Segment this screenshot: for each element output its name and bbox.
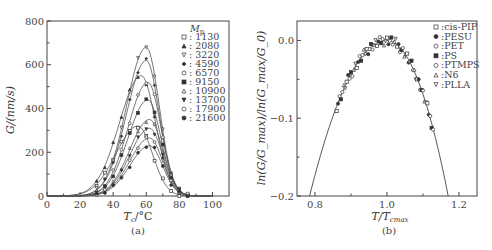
point-mp-9150 xyxy=(104,185,107,188)
point-mp-2080 xyxy=(104,166,107,169)
point-mp-1130 xyxy=(153,159,156,162)
point-mp-9150 xyxy=(120,154,123,157)
legend-marker-21600 xyxy=(182,116,186,120)
point-PTMPS xyxy=(371,48,374,51)
legend-marker-PET xyxy=(434,44,438,48)
point-mp-21600 xyxy=(104,192,107,195)
point-mp-6570 xyxy=(153,93,156,96)
point-mp-9150 xyxy=(145,98,148,101)
chart-b-ylabel: ln(G/G_max)/ln(G_max/G_0) xyxy=(255,31,268,186)
point-PESU xyxy=(417,78,420,81)
point-mp-21600 xyxy=(95,192,98,195)
point-mp-1130 xyxy=(137,126,140,129)
legend-marker-2080 xyxy=(182,44,186,48)
legend-marker-17900 xyxy=(182,107,186,111)
point-PS xyxy=(359,59,362,62)
point-PLLA xyxy=(344,87,347,90)
x-tick-label: 40 xyxy=(107,199,120,210)
fit-curve-path xyxy=(310,40,449,196)
legend-marker-3220 xyxy=(182,53,186,57)
y-tick-label: 200 xyxy=(25,147,44,158)
point-mp-9150 xyxy=(161,143,164,146)
point-cis-PIP xyxy=(385,36,388,39)
point-PS xyxy=(410,59,413,62)
point-mp-13700 xyxy=(161,153,164,156)
point-mp-3220 xyxy=(153,75,156,78)
legend-label-PLLA: :PLLA xyxy=(441,79,470,90)
point-PET xyxy=(348,77,351,80)
legend-marker-cis-PIP xyxy=(434,25,438,29)
legend-marker-1130 xyxy=(182,35,186,39)
chart-b-ticks: 0.81.01.20.0−0.1−0.2 xyxy=(270,35,467,210)
legend-marker-PLLA xyxy=(434,83,438,87)
chart-a-caption: (a) xyxy=(131,225,145,236)
y-tick-label: 600 xyxy=(25,59,44,70)
point-cis-PIP xyxy=(375,44,378,47)
legend-label-21600: : 21600 xyxy=(189,112,225,123)
point-mp-21600 xyxy=(145,146,148,149)
x-tick-label: 1.0 xyxy=(379,199,395,210)
point-mp-21600 xyxy=(137,151,140,154)
point-mp-21600 xyxy=(120,176,123,179)
point-mp-6570 xyxy=(145,82,148,85)
point-mp-4590 xyxy=(153,84,156,87)
chart-b-fit-curve xyxy=(310,40,449,196)
point-mp-17900 xyxy=(145,136,148,139)
point-PS xyxy=(390,36,393,39)
chart-b-legend: :cis-PIP:PESU:PET:PS:PTMPS:N6:PLLA xyxy=(434,21,480,90)
legend-marker-4590 xyxy=(182,62,186,66)
point-PTMPS xyxy=(341,91,344,94)
point-mp-17900 xyxy=(128,159,131,162)
point-mp-1130 xyxy=(104,171,107,174)
legend-marker-6570 xyxy=(182,71,186,75)
point-mp-1130 xyxy=(178,195,181,198)
y-tick-label: −0.1 xyxy=(270,113,294,124)
point-PLLA xyxy=(384,40,387,43)
point-mp-1130 xyxy=(161,177,164,180)
point-mp-9150 xyxy=(137,112,140,115)
point-mp-6570 xyxy=(112,169,115,172)
chart-b-xlabel: T/Tcmax xyxy=(371,210,408,224)
point-cis-PIP xyxy=(406,52,409,55)
point-PTMPS xyxy=(351,75,354,78)
point-mp-3220 xyxy=(137,57,140,60)
point-N6 xyxy=(342,84,345,87)
point-PS xyxy=(339,98,342,101)
point-PTMPS xyxy=(401,46,404,49)
x-tick-label: 20 xyxy=(74,199,87,210)
x-tick-label: 1.2 xyxy=(451,199,467,210)
point-mp-4590 xyxy=(128,98,131,101)
point-mp-13700 xyxy=(137,136,140,139)
x-tick-label: 80 xyxy=(173,199,186,210)
point-mp-3220 xyxy=(120,126,123,129)
point-mp-9150 xyxy=(153,111,156,114)
curve-mp-4590 xyxy=(47,60,213,196)
point-mp-9150 xyxy=(128,132,131,135)
point-mp-21600 xyxy=(153,146,156,149)
point-mp-21600 xyxy=(186,195,189,198)
point-PS xyxy=(370,43,373,46)
point-mp-1130 xyxy=(120,140,123,143)
point-mp-1130 xyxy=(170,190,173,193)
point-PESU xyxy=(367,53,370,56)
y-tick-label: 0.0 xyxy=(278,35,294,46)
point-mp-4590 xyxy=(145,57,148,60)
point-PTMPS xyxy=(361,53,364,56)
y-tick-label: 0 xyxy=(38,191,44,202)
legend-marker-PTMPS xyxy=(434,63,438,67)
point-PET xyxy=(429,114,432,117)
x-tick-label: 60 xyxy=(140,199,153,210)
point-mp-21600 xyxy=(128,166,131,169)
point-mp-17900 xyxy=(104,188,107,191)
chart-a-xlabel: Tc/°C xyxy=(124,210,153,224)
point-mp-6570 xyxy=(161,136,164,139)
point-mp-21600 xyxy=(112,184,115,187)
x-tick-label: 100 xyxy=(203,199,222,210)
point-mp-17900 xyxy=(170,179,173,182)
chart-a-ylabel: G/(nm/s) xyxy=(4,86,17,134)
y-tick-label: −0.2 xyxy=(270,191,294,202)
point-PTMPS xyxy=(421,89,424,92)
point-cis-PIP xyxy=(345,80,348,83)
y-tick-label: 800 xyxy=(25,16,44,27)
point-cis-PIP xyxy=(355,66,358,69)
